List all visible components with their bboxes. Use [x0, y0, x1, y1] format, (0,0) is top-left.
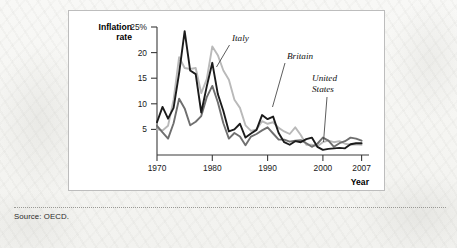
y-axis-title-line1: Inflation: [99, 22, 132, 32]
y-axis-title-line2: rate: [116, 32, 132, 42]
y-tick-label-15: 15: [138, 73, 148, 83]
series-line-united-states: [157, 86, 362, 147]
x-axis-title: Year: [351, 177, 370, 187]
x-tick-label-1970: 1970: [148, 163, 167, 173]
y-tick-label-20: 20: [138, 48, 148, 58]
x-axis-ticks: 1970 1980 1990 2000 2007: [148, 155, 372, 173]
y-axis-ticks: 25% 20 15 10 5: [130, 22, 157, 134]
footer-divider: [14, 207, 446, 208]
y-tick-label-25: 25%: [130, 22, 147, 32]
inflation-line-chart: Inflation rate 25% 20 15 10 5 197: [69, 11, 384, 190]
annotation-label-united-states-line1: United: [312, 73, 337, 83]
y-tick-label-10: 10: [138, 99, 148, 109]
annotation-label-italy: Italy: [231, 33, 250, 43]
x-tick-label-2007: 2007: [352, 163, 371, 173]
y-tick-label-5: 5: [142, 124, 147, 134]
source-note: Source: OECD.: [14, 212, 69, 221]
x-tick-label-2000: 2000: [314, 163, 333, 173]
annotation-label-united-states-line2: States: [312, 84, 334, 94]
x-tick-label-1980: 1980: [203, 163, 222, 173]
chart-panel: Inflation rate 25% 20 15 10 5 197: [68, 10, 385, 191]
chart-axes: [157, 27, 369, 155]
x-tick-label-1990: 1990: [258, 163, 277, 173]
annotation-label-britain: Britain: [287, 51, 313, 61]
